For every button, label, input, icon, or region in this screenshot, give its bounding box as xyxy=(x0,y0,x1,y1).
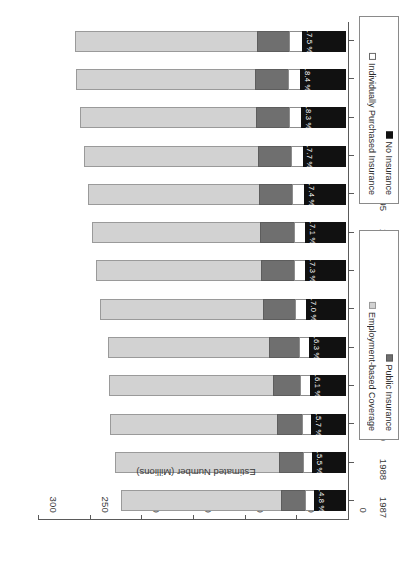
data-label-1989: 15.7 % xyxy=(314,412,322,437)
data-label-1999: 17.5 % xyxy=(305,29,313,54)
bar-1989: 15.7 % xyxy=(110,414,349,435)
legend-swatch-no-insurance xyxy=(386,131,393,138)
legend-swatch-public-insurance xyxy=(386,354,393,361)
category-tick xyxy=(349,117,354,118)
bar-segment-public-insurance xyxy=(255,69,288,90)
bar-1994: 17.1 % xyxy=(92,222,349,243)
data-label-1993: 17.3 % xyxy=(308,258,316,283)
bar-segment-employment-based-coverage xyxy=(84,146,259,167)
value-axis-title: Estimated Number (Millions) xyxy=(76,467,316,478)
legend-swatch-individually-purchased xyxy=(369,53,376,60)
bar-segment-no-insurance: 18.3 % xyxy=(301,107,346,128)
bar-segment-no-insurance: 17.3 % xyxy=(305,260,346,281)
category-tick xyxy=(349,155,354,156)
value-tick-label: 250 xyxy=(71,497,111,513)
bar-segment-employment-based-coverage xyxy=(109,375,274,396)
bar-segment-employment-based-coverage xyxy=(80,107,258,128)
data-label-1998: 18.4 % xyxy=(303,67,311,92)
bar-segment-public-insurance xyxy=(258,146,292,167)
bar-segment-employment-based-coverage xyxy=(96,260,261,281)
category-tick xyxy=(349,232,354,233)
category-tick xyxy=(349,462,354,463)
bar-segment-public-insurance xyxy=(259,184,294,205)
legend-uninsured: No Insurance Individually Purchased Insu… xyxy=(359,16,399,204)
bar-segment-public-insurance xyxy=(256,107,290,128)
bar-1999: 17.5 % xyxy=(75,31,349,52)
value-tick xyxy=(193,515,194,520)
legend-label-public-insurance: Public Insurance xyxy=(384,364,394,431)
bar-segment-public-insurance xyxy=(281,490,306,511)
bar-segment-public-insurance xyxy=(261,260,295,281)
legend-label-no-insurance: No Insurance xyxy=(384,141,394,195)
value-tick xyxy=(38,515,39,520)
bar-segment-employment-based-coverage xyxy=(121,490,282,511)
value-tick xyxy=(245,515,246,520)
plot-area: 300250200150100500 198719881989199019911… xyxy=(0,0,411,586)
bar-segment-no-insurance: 18.4 % xyxy=(300,69,346,90)
bar-segment-no-insurance: 15.7 % xyxy=(311,414,346,435)
bar-segment-no-insurance: 17.1 % xyxy=(305,222,346,243)
legend-entry: Individually Purchased Insurance xyxy=(367,53,377,195)
legend-entry: Public Insurance xyxy=(384,354,394,431)
category-tick xyxy=(349,193,354,194)
bar-segment-no-insurance: 16.1 % xyxy=(310,375,346,396)
data-label-1992: 17.0 % xyxy=(309,297,317,322)
category-label-1987: 1987 xyxy=(355,497,389,518)
chart-figure: 300250200150100500 198719881989199019911… xyxy=(0,0,411,586)
bar-1992: 17.0 % xyxy=(100,299,349,320)
category-tick xyxy=(349,423,354,424)
category-tick xyxy=(349,500,354,501)
legend-label-individually-purchased: Individually Purchased Insurance xyxy=(367,63,377,195)
data-label-1990: 16.1 % xyxy=(313,373,321,398)
bar-segment-public-insurance xyxy=(277,414,303,435)
bar-segment-employment-based-coverage xyxy=(92,222,260,243)
bar-segment-public-insurance xyxy=(263,299,296,320)
value-tick xyxy=(348,515,349,520)
bar-1996: 17.7 % xyxy=(84,146,349,167)
bar-segment-employment-based-coverage xyxy=(108,337,270,358)
bar-1987: 14.8 % xyxy=(121,490,349,511)
bar-1995: 17.4 % xyxy=(88,184,349,205)
value-tick xyxy=(141,515,142,520)
category-tick xyxy=(349,308,354,309)
data-label-1996: 17.7 % xyxy=(306,144,314,169)
bar-segment-public-insurance xyxy=(260,222,295,243)
category-tick xyxy=(349,347,354,348)
bar-segment-public-insurance xyxy=(269,337,300,358)
bar-segment-employment-based-coverage xyxy=(88,184,260,205)
value-axis-line xyxy=(39,519,349,520)
bar-1998: 18.4 % xyxy=(76,69,349,90)
bar-segment-no-insurance: 16.3 % xyxy=(309,337,346,358)
bar-segment-no-insurance: 17.4 % xyxy=(304,184,346,205)
data-label-1988: 15.5 % xyxy=(315,450,323,475)
legend-entry: No Insurance xyxy=(384,131,394,195)
data-label-1997: 18.3 % xyxy=(304,105,312,130)
legend-swatch-employment-based xyxy=(369,302,376,309)
bar-segment-no-insurance: 14.8 % xyxy=(314,490,346,511)
category-label-1988: 1988 xyxy=(355,459,389,480)
bar-1990: 16.1 % xyxy=(109,375,349,396)
bar-segment-employment-based-coverage xyxy=(75,31,258,52)
bar-segment-public-insurance xyxy=(257,31,290,52)
bar-segment-no-insurance: 17.5 % xyxy=(302,31,346,52)
bar-1993: 17.3 % xyxy=(96,260,349,281)
category-tick xyxy=(349,270,354,271)
bar-segment-no-insurance: 17.7 % xyxy=(303,146,346,167)
bar-1997: 18.3 % xyxy=(80,107,349,128)
bar-segment-public-insurance xyxy=(273,375,301,396)
bar-segment-individually-purchased-insurance xyxy=(288,69,301,90)
data-label-1987: 14.8 % xyxy=(317,488,325,513)
data-label-1991: 16.3 % xyxy=(312,335,320,360)
bar-segment-employment-based-coverage xyxy=(110,414,277,435)
bar-1991: 16.3 % xyxy=(108,337,349,358)
bar-segment-employment-based-coverage xyxy=(100,299,264,320)
value-tick xyxy=(90,515,91,520)
legend-label-employment-based: Employment-based Coverage xyxy=(367,312,377,431)
category-tick xyxy=(349,385,354,386)
data-label-1994: 17.1 % xyxy=(308,220,316,245)
bar-segment-employment-based-coverage xyxy=(76,69,257,90)
data-label-1995: 17.4 % xyxy=(307,182,315,207)
bar-segment-no-insurance: 17.0 % xyxy=(306,299,346,320)
legend-coverage: Public Insurance Employment-based Covera… xyxy=(359,230,399,440)
bar-segment-individually-purchased-insurance xyxy=(289,31,303,52)
